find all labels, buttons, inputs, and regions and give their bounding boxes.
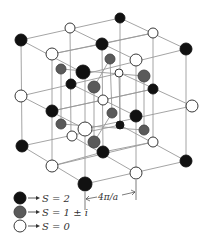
s2-node-icon xyxy=(97,146,109,158)
s2-node-icon xyxy=(78,177,92,191)
s2-node-icon xyxy=(76,65,90,79)
s0-node-icon xyxy=(130,167,142,179)
lattice-figure: 4π/a S = 2 S = 1 ± i S = 0 xyxy=(0,0,205,237)
s0-node-icon xyxy=(98,95,108,105)
s1-node-icon xyxy=(88,81,100,93)
legend-item-s2: S = 2 xyxy=(14,192,70,204)
s1-node-icon xyxy=(56,64,66,74)
s0-node-icon xyxy=(130,54,142,66)
legend-item-s1: S = 1 ± i xyxy=(14,206,88,218)
s1-node-icon xyxy=(107,108,117,118)
s1-node-icon xyxy=(88,136,100,148)
s0-node-icon xyxy=(46,160,58,172)
s0-node-icon xyxy=(148,137,158,147)
s2-node-icon xyxy=(96,38,108,50)
s0-node-icon xyxy=(115,69,123,77)
s0-node-icon xyxy=(186,100,198,112)
s2-node-icon xyxy=(116,121,124,129)
legend: S = 2 S = 1 ± i S = 0 xyxy=(14,192,88,232)
s2-node-icon xyxy=(180,155,192,167)
s1-marker-icon xyxy=(14,206,26,218)
s1-node-icon xyxy=(138,70,150,82)
s2-node-icon xyxy=(16,140,28,152)
s0-node-icon xyxy=(15,90,27,102)
s0-marker-icon xyxy=(14,220,26,232)
s2-node-icon xyxy=(148,84,158,94)
s1-node-icon xyxy=(139,125,149,135)
s2-node-icon xyxy=(115,13,125,23)
s1-node-icon xyxy=(56,119,66,129)
s0-node-icon xyxy=(65,23,75,33)
legend-label-s0: S = 0 xyxy=(42,221,71,232)
legend-item-s0: S = 0 xyxy=(14,220,71,232)
s2-node-icon xyxy=(66,79,76,89)
s2-node-icon xyxy=(15,34,27,46)
s2-marker-icon xyxy=(14,192,26,204)
s2-node-icon xyxy=(130,110,142,122)
s0-node-icon xyxy=(67,131,77,141)
legend-label-s2: S = 2 xyxy=(42,193,70,204)
s1-node-icon xyxy=(105,54,115,64)
s0-node-icon xyxy=(46,48,58,60)
s2-node-icon xyxy=(46,105,58,117)
s0-node-icon xyxy=(148,28,158,38)
s0-node-icon xyxy=(78,122,92,136)
legend-label-s1: S = 1 ± i xyxy=(42,207,88,218)
dimension-label: 4π/a xyxy=(97,192,118,202)
s2-node-icon xyxy=(180,43,192,55)
